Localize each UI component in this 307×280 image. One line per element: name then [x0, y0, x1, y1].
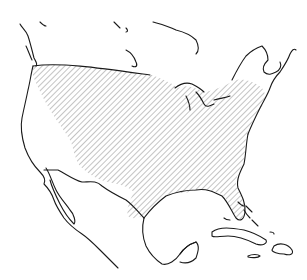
st-lawrence	[232, 46, 281, 80]
cuba	[212, 228, 266, 245]
hudson-bay	[153, 22, 198, 54]
mexico-east-coast	[143, 218, 196, 264]
range-area	[33, 65, 265, 220]
florida-keys	[224, 218, 230, 220]
jamaica	[248, 255, 260, 258]
northwest-islands	[20, 22, 46, 66]
north-islands	[114, 22, 137, 67]
yucatan-outline	[180, 242, 198, 263]
range-map	[0, 0, 307, 280]
hispaniola	[272, 244, 293, 255]
